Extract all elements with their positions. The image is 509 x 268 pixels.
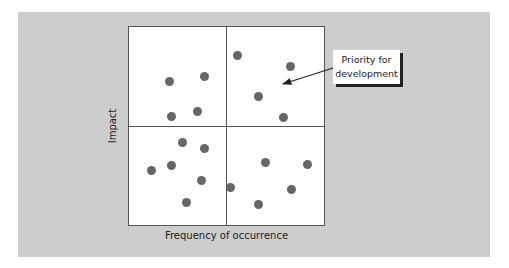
callout-line-2: development [333, 67, 400, 81]
x-axis-label: Frequency of occurrence [128, 230, 325, 241]
arrow-icon [0, 0, 509, 268]
priority-callout: Priority for development [333, 50, 400, 84]
y-axis-label: Impact [107, 109, 118, 144]
callout-line-1: Priority for [333, 53, 400, 67]
